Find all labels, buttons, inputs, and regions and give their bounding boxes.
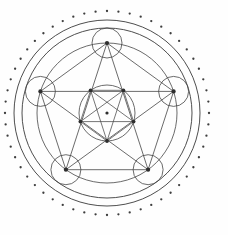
outer-node-right — [172, 89, 176, 93]
ring-dot — [207, 100, 209, 102]
ring-dot — [169, 32, 171, 34]
ring-dot — [198, 156, 200, 158]
ring-dot — [4, 123, 6, 125]
ring-dot — [83, 12, 85, 14]
ring-dot — [52, 25, 54, 27]
ring-dot — [150, 20, 152, 22]
ring-dot — [72, 208, 74, 210]
inner-node-upper-left — [89, 88, 93, 92]
inner-node-left — [79, 120, 83, 124]
inner-node-bottom — [105, 139, 109, 143]
vertex-circles — [25, 28, 188, 185]
outer-pentagram-edges — [40, 43, 173, 170]
ring-dot — [6, 89, 8, 91]
ring-dot — [150, 204, 152, 206]
outer-node-top — [105, 41, 109, 45]
ring-dot — [202, 78, 204, 80]
ring-dot — [62, 20, 64, 22]
outer-node-bottom-right — [146, 168, 150, 172]
ring-dot — [192, 58, 194, 60]
ring-dot — [6, 135, 8, 137]
ring-dot — [192, 166, 194, 168]
ring-dot — [52, 198, 54, 200]
ring-dot — [140, 16, 142, 18]
center-node — [105, 111, 108, 114]
figure-canvas: Pentagram Mandala Sacred-geometry line d… — [0, 0, 228, 235]
ring-dot — [129, 211, 131, 213]
ring-dot — [14, 68, 16, 70]
ring-dot — [4, 112, 6, 114]
ring-dot — [19, 166, 21, 168]
ring-dot — [34, 184, 36, 186]
outer-node-bottom-left — [64, 168, 68, 172]
ring-dot — [205, 135, 207, 137]
pentagram-mandala-svg — [0, 0, 228, 235]
ring-dot — [62, 204, 64, 206]
ring-dot — [83, 211, 85, 213]
ring-dot — [186, 48, 188, 50]
ring-dot — [117, 10, 119, 12]
inner-node-right — [132, 120, 136, 124]
ring-dot — [10, 146, 12, 148]
ring-dot — [207, 123, 209, 125]
ring-dot — [205, 89, 207, 91]
ring-dot — [94, 213, 96, 215]
ring-dot — [140, 208, 142, 210]
ring-dot — [10, 78, 12, 80]
ring-dot — [26, 48, 28, 50]
ring-dot — [178, 184, 180, 186]
ring-dot — [4, 100, 6, 102]
ring-dot — [34, 40, 36, 42]
outer-edge — [107, 43, 174, 91]
outer-edge — [40, 43, 107, 91]
inner-node-upper-right — [122, 88, 126, 92]
ring-dot — [208, 112, 210, 114]
ring-dot — [186, 175, 188, 177]
ring-dot — [117, 213, 119, 215]
ring-dot — [178, 40, 180, 42]
ring-dot — [19, 58, 21, 60]
ring-dot — [14, 156, 16, 158]
vertex-nodes — [38, 41, 175, 172]
ring-dot — [160, 25, 162, 27]
ring-dot — [106, 214, 108, 216]
ring-dot — [169, 192, 171, 194]
ring-dot — [129, 12, 131, 14]
ring-dot — [26, 175, 28, 177]
ring-dot — [94, 10, 96, 12]
ring-dot — [72, 16, 74, 18]
ring-dot — [202, 146, 204, 148]
outer-node-left — [38, 89, 42, 93]
ring-dot — [198, 68, 200, 70]
ring-dot — [106, 10, 108, 12]
ring-dot — [42, 32, 44, 34]
ring-dot — [42, 192, 44, 194]
ring-dot — [160, 198, 162, 200]
